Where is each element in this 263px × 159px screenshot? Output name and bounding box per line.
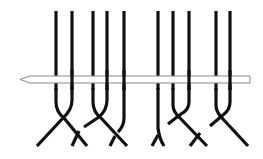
diagram-canvas — [0, 0, 263, 159]
knitting-needle — [20, 76, 250, 83]
